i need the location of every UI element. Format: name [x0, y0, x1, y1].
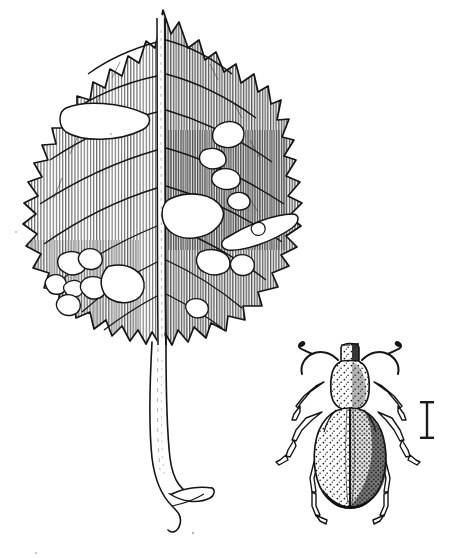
beetle-elytra	[314, 408, 387, 509]
illustration-canvas	[0, 0, 454, 557]
illustration-figure: Lobed oak leaf rendered in fine vertical…	[0, 0, 454, 557]
beetle-pronotum	[331, 361, 369, 411]
